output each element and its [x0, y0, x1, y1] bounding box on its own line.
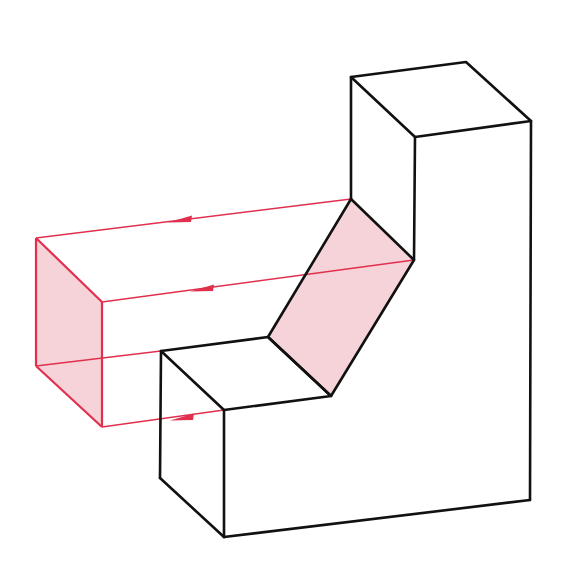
- arrow-left-icon: [190, 285, 214, 292]
- projector-line-top: [36, 199, 351, 238]
- bottom-front-edge: [224, 500, 530, 537]
- upper-block-front-edge: [414, 137, 415, 260]
- lower-left-edge: [160, 351, 161, 478]
- projection-arrows: [168, 216, 214, 421]
- auxiliary-view-diagram: [0, 0, 564, 574]
- right-back-edge: [530, 121, 531, 500]
- bottom-left-edge: [160, 478, 224, 537]
- diagram-canvas: [0, 0, 564, 574]
- projected-face-shading: [36, 238, 102, 427]
- projector-line-bottom: [102, 410, 224, 427]
- upper-block-top-face: [351, 62, 531, 137]
